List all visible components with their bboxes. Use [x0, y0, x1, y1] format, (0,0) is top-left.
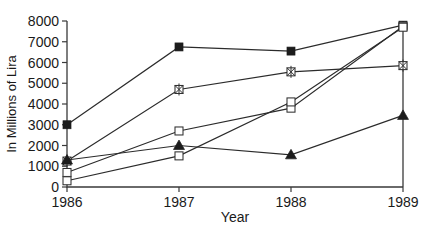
series-line [67, 25, 403, 125]
data-point-open-square [287, 98, 295, 106]
y-tick-label: 8000 [28, 13, 59, 29]
series-group [62, 21, 409, 185]
data-point-open-square [399, 23, 407, 31]
data-point-open-square [63, 177, 71, 185]
y-tick-label: 4000 [28, 96, 59, 112]
y-tick-label: 0 [51, 179, 59, 195]
y-axis-title: In Millions of Lira [4, 54, 19, 152]
x-tick-label: 1989 [387, 194, 418, 210]
chart-canvas: 0100020003000400050006000700080001986198… [0, 0, 440, 230]
x-tick-label: 1988 [275, 194, 306, 210]
x-axis-title: Year [221, 209, 250, 225]
y-tick-label: 6000 [28, 55, 59, 71]
series-filled-triangle [62, 110, 409, 164]
y-tick-label: 3000 [28, 117, 59, 133]
series-line [67, 115, 403, 160]
axis-spines [67, 21, 403, 187]
series-open-square [63, 23, 407, 185]
data-point-filled-square [287, 47, 295, 55]
data-point-filled-triangle [174, 140, 185, 150]
y-tick-label: 7000 [28, 34, 59, 50]
y-axis-ticks: 010002000300040005000600070008000 [28, 13, 67, 195]
data-point-open-square [63, 168, 71, 176]
y-tick-label: 5000 [28, 75, 59, 91]
data-point-filled-triangle [398, 110, 409, 120]
x-axis-ticks: 1986198719881989 [51, 187, 418, 210]
series-filled-square [63, 21, 407, 129]
y-tick-label: 1000 [28, 158, 59, 174]
series-crossed-square [63, 60, 407, 167]
data-point-filled-square [63, 121, 71, 129]
series-line [67, 27, 403, 181]
data-point-open-square [175, 152, 183, 160]
data-point-open-square [175, 127, 183, 135]
data-point-filled-square [175, 43, 183, 51]
series-line [67, 66, 403, 161]
x-tick-label: 1987 [163, 194, 194, 210]
line-chart: 0100020003000400050006000700080001986198… [0, 0, 440, 230]
y-tick-label: 2000 [28, 138, 59, 154]
axes-group [67, 21, 403, 187]
x-tick-label: 1986 [51, 194, 82, 210]
